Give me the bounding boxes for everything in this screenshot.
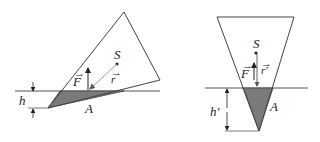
vector-arrow-glyph: → [74, 67, 85, 79]
depth-label-h: h [19, 93, 26, 108]
vector-arrow-glyph: → [242, 59, 253, 71]
center-label-left: S [114, 47, 121, 62]
area-label-right: A [269, 99, 278, 114]
area-label-left: A [84, 101, 93, 116]
upright-figure: h' S r' → F → A [205, 17, 308, 131]
depth-label-h-prime: h' [210, 104, 220, 119]
submerged-area-right [243, 88, 273, 131]
vector-arrow-glyph: → [111, 66, 122, 78]
buoyancy-diagram: h S r → F → A h' S r' → F → A [0, 0, 320, 142]
vector-arrow-glyph: → [261, 57, 272, 69]
center-label-right: S [253, 36, 260, 51]
tilted-figure: h S r → F → A [15, 12, 160, 118]
